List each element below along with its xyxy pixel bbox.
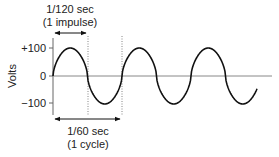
tick-label-zero: 0: [40, 70, 46, 82]
y-axis-label: Volts: [6, 64, 18, 88]
cycle-label-line2: (1 cycle): [67, 138, 109, 150]
sine-wave-diagram: +100 0 −100 Volts 1/120 sec (1 impulse) …: [0, 0, 279, 157]
tick-label-minus-100: −100: [21, 97, 46, 109]
tick-label-plus-100: +100: [21, 42, 46, 54]
impulse-label-line1: 1/120 sec: [46, 3, 94, 15]
cycle-label-line1: 1/60 sec: [67, 125, 109, 137]
impulse-label-line2: (1 impulse): [43, 16, 97, 28]
